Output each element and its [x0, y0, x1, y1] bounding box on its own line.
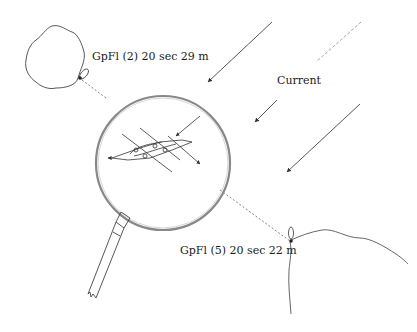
- light-label-top: GpFl (2) 20 sec 29 m: [92, 50, 209, 63]
- current-label: Current: [277, 74, 321, 87]
- boat-icon: [108, 116, 200, 172]
- current-arrows: [208, 22, 361, 172]
- magnifier-handle: [88, 212, 130, 298]
- current-arrow-4: [287, 104, 360, 172]
- coastline-bottom-right: [289, 230, 408, 314]
- island-top-left: [26, 26, 85, 89]
- sight-line-bottom: [220, 190, 290, 241]
- light-label-bottom: GpFl (5) 20 sec 22 m: [180, 244, 297, 257]
- sight-line-top: [82, 80, 106, 98]
- current-arrow-1: [208, 22, 272, 82]
- current-arrow-2: [316, 22, 361, 62]
- magnifier-lens: [96, 96, 230, 230]
- diagram-canvas: GpFl (2) 20 sec 29 m Current GpFl (5) 20…: [0, 0, 417, 332]
- current-arrow-3: [255, 100, 277, 122]
